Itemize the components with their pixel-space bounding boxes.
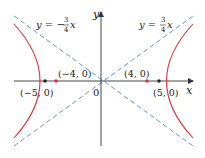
svg-text:x: x bbox=[167, 19, 173, 30]
svg-text:x: x bbox=[70, 19, 76, 30]
asymptote-label-positive: y = 3 4 x bbox=[138, 16, 173, 34]
focus-right-label: (5, 0) bbox=[153, 87, 179, 98]
vertex-left-point bbox=[54, 79, 58, 83]
hyperbola-diagram: y x 0 y = − 3 4 x y = 3 4 x (−5, 0) (−4,… bbox=[0, 0, 205, 158]
asymptote-label-negative: y = − 3 4 x bbox=[35, 16, 76, 34]
x-axis-label: x bbox=[186, 84, 193, 97]
vertex-left-label: (−4, 0) bbox=[58, 68, 92, 79]
svg-text:y =: y = bbox=[138, 19, 156, 30]
origin-label: 0 bbox=[93, 87, 99, 98]
svg-text:4: 4 bbox=[64, 26, 69, 34]
focus-left-point bbox=[43, 79, 46, 82]
vertex-right-point bbox=[145, 79, 149, 83]
focus-right-point bbox=[157, 79, 160, 82]
svg-text:3: 3 bbox=[161, 16, 165, 24]
y-axis-label: y bbox=[92, 8, 100, 21]
vertex-right-label: (4, 0) bbox=[124, 68, 150, 79]
svg-text:3: 3 bbox=[64, 16, 68, 24]
focus-left-label: (−5, 0) bbox=[20, 87, 54, 98]
svg-text:y = −: y = − bbox=[35, 19, 65, 30]
svg-text:4: 4 bbox=[161, 26, 166, 34]
